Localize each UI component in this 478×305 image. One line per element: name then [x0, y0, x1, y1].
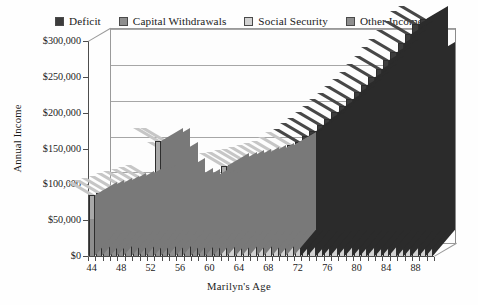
- y-tick-label: $300,000: [43, 36, 81, 46]
- x-tick-mark: [324, 257, 325, 261]
- x-tick-label: 60: [204, 263, 214, 273]
- x-tick-mark: [301, 257, 302, 261]
- depth-connector: [88, 28, 111, 42]
- x-tick-mark: [360, 257, 361, 261]
- x-tick-mark: [294, 257, 295, 261]
- x-tick-mark: [95, 257, 96, 261]
- plot-area: 444852566064687276808488 $0$50,000$100,0…: [88, 41, 456, 256]
- x-tick-mark: [353, 257, 354, 261]
- x-tick-label: 76: [322, 263, 332, 273]
- x-tick-mark: [338, 257, 339, 261]
- x-tick-mark: [191, 257, 192, 261]
- x-tick-mark: [184, 257, 185, 261]
- x-tick-mark: [346, 257, 347, 261]
- legend-label-capital_withdrawals: Capital Withdrawals: [133, 16, 227, 27]
- x-tick-label: 84: [381, 263, 391, 273]
- y-tick-mark: [83, 77, 88, 78]
- x-tick-mark: [412, 257, 413, 261]
- x-tick-mark: [154, 257, 155, 261]
- x-tick-mark: [279, 257, 280, 261]
- legend-item-capital_withdrawals: Capital Withdrawals: [119, 16, 227, 27]
- bar-segment-other-income: [89, 219, 95, 256]
- x-tick-label: 88: [411, 263, 421, 273]
- x-tick-mark: [169, 257, 170, 261]
- legend-swatch-other_income: [346, 17, 355, 26]
- x-tick-mark: [316, 257, 317, 261]
- x-tick-mark: [235, 257, 236, 261]
- x-tick-mark: [162, 257, 163, 261]
- x-tick-mark: [176, 257, 177, 261]
- x-tick-mark: [228, 257, 229, 261]
- y-tick-mark: [83, 113, 88, 114]
- x-tick-mark: [206, 257, 207, 261]
- x-axis-floor: 444852566064687276808488: [88, 256, 456, 270]
- y-tick-label: $250,000: [43, 72, 81, 82]
- x-tick-mark: [427, 257, 428, 261]
- x-tick-mark: [265, 257, 266, 261]
- y-tick-label: $50,000: [48, 215, 81, 225]
- x-tick-label: 80: [352, 263, 362, 273]
- chart-root: DeficitCapital WithdrawalsSocial Securit…: [0, 0, 478, 305]
- y-axis-title: Annual Income: [12, 89, 23, 189]
- x-tick-mark: [405, 257, 406, 261]
- x-tick-mark: [110, 257, 111, 261]
- bar-segment-capital-withdrawals: [89, 195, 95, 219]
- y-tick-mark: [83, 220, 88, 221]
- x-tick-mark: [434, 257, 435, 261]
- x-tick-mark: [368, 257, 369, 261]
- x-tick-mark: [250, 257, 251, 261]
- x-tick-mark: [125, 257, 126, 261]
- x-tick-mark: [375, 257, 376, 261]
- x-tick-label: 44: [87, 263, 97, 273]
- bar-column: [89, 195, 95, 256]
- x-tick-mark: [147, 257, 148, 261]
- x-tick-mark: [397, 257, 398, 261]
- x-tick-mark: [390, 257, 391, 261]
- legend-label-deficit: Deficit: [69, 16, 101, 27]
- y-tick-label: $150,000: [43, 143, 81, 153]
- x-tick-mark: [309, 257, 310, 261]
- legend-item-deficit: Deficit: [55, 16, 101, 27]
- x-tick-label: 56: [175, 263, 185, 273]
- x-tick-mark: [103, 257, 104, 261]
- x-tick-mark: [88, 257, 89, 261]
- x-tick-label: 48: [116, 263, 126, 273]
- x-tick-mark: [132, 257, 133, 261]
- x-tick-mark: [221, 257, 222, 261]
- x-tick-mark: [331, 257, 332, 261]
- x-tick-mark: [243, 257, 244, 261]
- y-tick-label: $0: [71, 251, 81, 261]
- legend-swatch-deficit: [55, 17, 64, 26]
- legend-swatch-capital_withdrawals: [119, 17, 128, 26]
- x-tick-mark: [140, 257, 141, 261]
- x-tick-mark: [198, 257, 199, 261]
- y-tick-mark: [83, 149, 88, 150]
- legend-label-social_security: Social Security: [258, 16, 328, 27]
- x-tick-mark: [257, 257, 258, 261]
- x-tick-mark: [382, 257, 383, 261]
- y-tick-label: $200,000: [43, 108, 81, 118]
- x-tick-label: 72: [293, 263, 303, 273]
- x-tick-label: 68: [263, 263, 273, 273]
- x-tick-label: 52: [145, 263, 155, 273]
- x-tick-label: 64: [234, 263, 244, 273]
- bar-series-group: [88, 41, 456, 256]
- x-axis-title: Marilyn's Age: [0, 281, 478, 292]
- x-tick-mark: [117, 257, 118, 261]
- legend-swatch-social_security: [244, 17, 253, 26]
- x-tick-mark: [287, 257, 288, 261]
- x-tick-mark: [213, 257, 214, 261]
- x-tick-mark: [272, 257, 273, 261]
- x-tick-mark: [419, 257, 420, 261]
- legend-item-social_security: Social Security: [244, 16, 328, 27]
